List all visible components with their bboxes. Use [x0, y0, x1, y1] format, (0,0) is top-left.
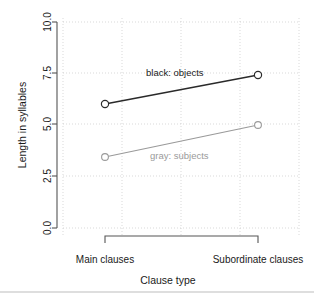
gridlines-horizontal — [63, 22, 300, 228]
x-tick-labels: Main clauses Subordinate clauses — [76, 254, 303, 265]
chart-figure: 10.0 7.5 5.0 2.5 0.0 Length in syllables… — [0, 0, 314, 296]
data-point-objects-main — [101, 100, 108, 107]
x-axis — [105, 236, 258, 243]
annotation-objects: black: objects — [146, 67, 204, 78]
annotation-subjects: gray: subjects — [150, 150, 209, 161]
chart-canvas: 10.0 7.5 5.0 2.5 0.0 Length in syllables… — [0, 0, 314, 296]
data-point-subjects-main — [102, 154, 109, 161]
x-axis-bracket — [105, 236, 258, 243]
series-line-objects — [105, 75, 258, 104]
y-axis-title: Length in syllables — [16, 82, 28, 168]
y-tick-label-0: 0.0 — [42, 221, 53, 235]
x-tick-label-main-clauses: Main clauses — [76, 254, 134, 265]
x-tick-label-subordinate-clauses: Subordinate clauses — [213, 254, 304, 265]
y-tick-label-7.5: 7.5 — [42, 66, 53, 80]
data-point-subjects-subordinate — [255, 122, 262, 129]
x-axis-title: Clause type — [140, 274, 196, 286]
gridlines-vertical — [63, 18, 299, 235]
y-tick-label-5: 5.0 — [42, 117, 53, 131]
y-tick-label-10: 10.0 — [42, 12, 53, 32]
y-tick-labels: 10.0 7.5 5.0 2.5 0.0 — [42, 12, 53, 235]
y-tick-label-2.5: 2.5 — [42, 169, 53, 183]
data-point-objects-subordinate — [254, 71, 261, 78]
y-axis — [52, 22, 57, 228]
